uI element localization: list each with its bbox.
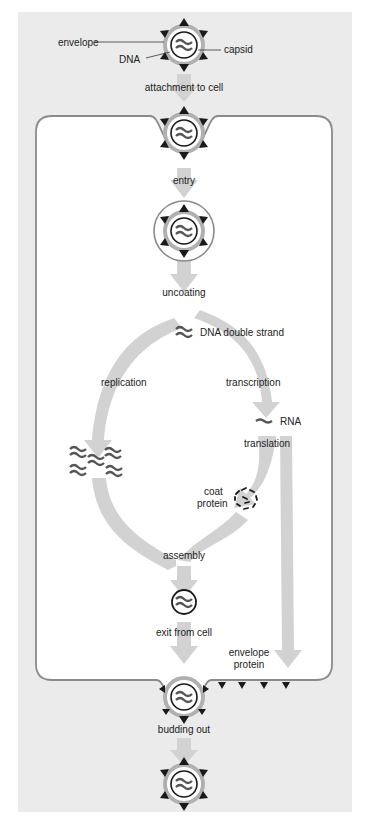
assembled-capsid [172,590,196,614]
label-attachment: attachment to cell [145,82,223,93]
label-uncoating: uncoating [162,287,205,298]
label-entry: entry [173,175,195,186]
label-capsid: capsid [224,44,253,55]
label-exit: exit from cell [156,627,212,638]
label-envelope-protein-2: protein [234,659,265,670]
label-coat-protein: protein [197,498,228,509]
label-translation: translation [244,438,290,449]
label-dna-double-strand: DNA double strand [200,327,284,338]
label-budding: budding out [158,724,210,735]
virion-endosome [154,201,214,261]
label-rna: RNA [280,416,301,427]
virus-lifecycle-diagram: envelope DNA capsid attachment to cell e… [0,0,367,822]
label-dna: DNA [119,54,140,65]
label-envelope: envelope [58,37,99,48]
label-transcription: transcription [226,377,280,388]
label-envelope-protein-1: envelope [229,647,270,658]
label-replication: replication [101,377,147,388]
label-coat: coat [204,486,223,497]
label-assembly: assembly [163,550,205,561]
